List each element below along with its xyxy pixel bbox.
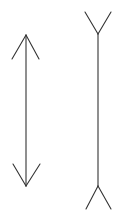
muller-lyer-diagram [0,0,121,219]
figure-outward-fins [85,12,111,209]
right-top-fin-left [85,12,98,34]
right-top-fin-right [98,12,111,34]
left-top-fin-right [26,35,39,59]
left-top-fin-left [12,35,26,59]
right-bottom-fin-left [86,186,98,209]
figure-inward-arrowheads [12,35,40,186]
right-bottom-fin-right [98,186,111,209]
left-bottom-fin-right [26,164,40,186]
left-bottom-fin-left [13,164,26,186]
